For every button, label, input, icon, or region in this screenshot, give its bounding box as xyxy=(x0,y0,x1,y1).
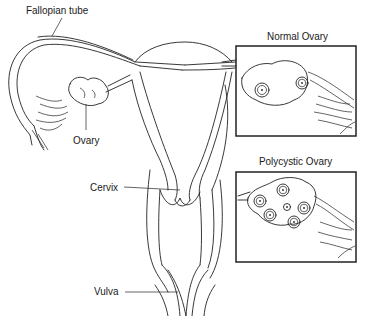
title-polycystic-ovary: Polycystic Ovary xyxy=(259,155,332,167)
title-normal-ovary: Normal Ovary xyxy=(267,30,328,42)
ovary-left xyxy=(69,75,132,106)
leader-lines xyxy=(52,18,180,292)
normal-ovary-inset xyxy=(222,46,356,136)
female-reproductive-diagram: Fallopian tube Ovary Cervix Vulva Normal… xyxy=(0,0,365,316)
fallopian-tube-left xyxy=(9,36,185,150)
label-vulva: Vulva xyxy=(94,285,118,297)
label-cervix: Cervix xyxy=(90,181,118,193)
polycystic-ovary-inset xyxy=(236,172,356,262)
vagina xyxy=(147,170,223,316)
label-fallopian-tube: Fallopian tube xyxy=(26,4,88,16)
label-ovary: Ovary xyxy=(73,134,99,146)
